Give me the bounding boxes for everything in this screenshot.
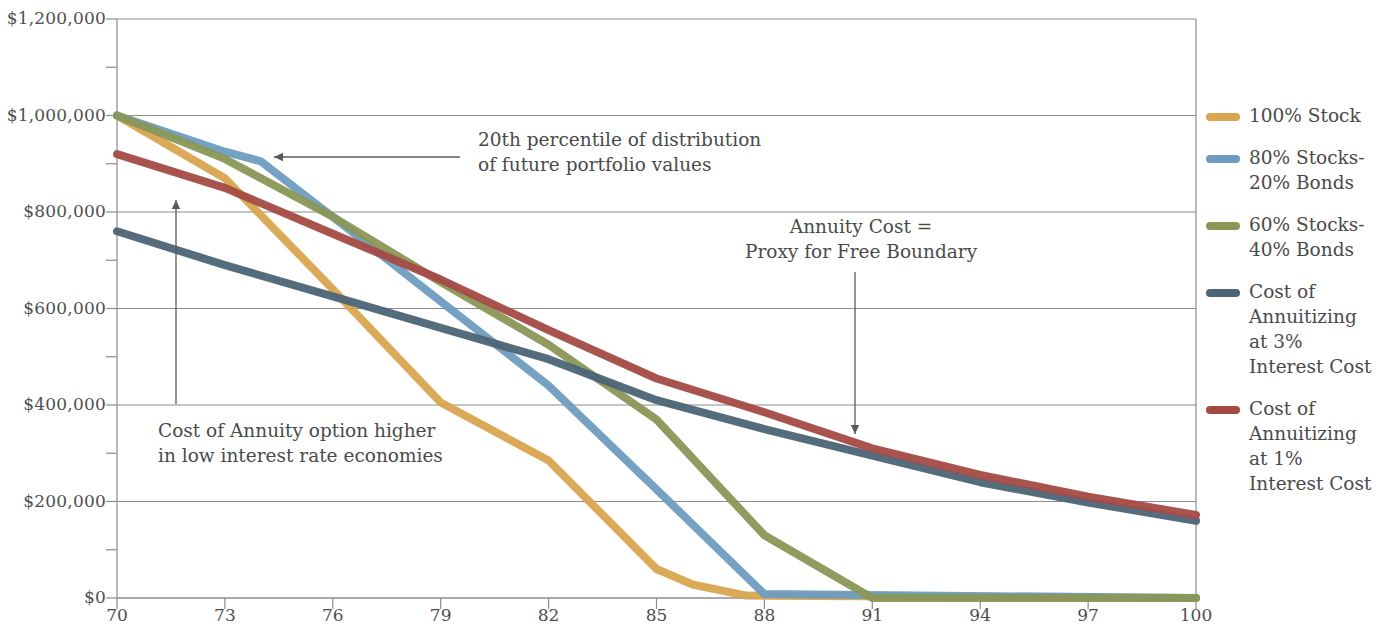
arrow-annuity-cost [851, 272, 859, 434]
y-axis-tick-label: $200,000 [23, 491, 106, 511]
legend-item[interactable]: 60% Stocks- 40% Bonds [1206, 213, 1378, 263]
legend-color-swatch-icon [1206, 222, 1240, 230]
x-axis-tick-label: 94 [969, 605, 991, 625]
y-axis-tick-label: $1,000,000 [7, 105, 106, 125]
chart-legend: 100% Stock80% Stocks- 20% Bonds60% Stock… [1206, 104, 1378, 514]
x-axis-tick-label: 97 [1077, 605, 1099, 625]
legend-item-label: 100% Stock [1249, 104, 1361, 129]
x-axis-tick-label: 76 [322, 605, 344, 625]
x-axis-tick-label: 85 [646, 605, 668, 625]
y-axis-tick-label: $400,000 [23, 394, 106, 414]
legend-item-label: Cost of Annuitizing at 1% Interest Cost [1249, 397, 1371, 497]
annotation-20th-percentile: 20th percentile of distribution of futur… [478, 128, 761, 177]
legend-color-swatch-icon [1206, 406, 1240, 414]
x-axis-tick-label: 79 [430, 605, 452, 625]
x-axis-tick-label: 70 [106, 605, 128, 625]
legend-item[interactable]: 80% Stocks- 20% Bonds [1206, 146, 1378, 196]
x-axis-tick-label: 73 [214, 605, 236, 625]
plot-area [0, 0, 1210, 636]
legend-color-swatch-icon [1206, 113, 1240, 121]
arrow-low-interest-rate [172, 200, 180, 404]
arrow-20th-percentile [274, 153, 460, 161]
plot-svg [0, 0, 1210, 636]
x-axis-tick-label: 100 [1180, 605, 1212, 625]
legend-item[interactable]: Cost of Annuitizing at 3% Interest Cost [1206, 280, 1378, 380]
y-axis-tick-label: $600,000 [23, 298, 106, 318]
y-axis-tick-label: $0 [84, 587, 106, 607]
legend-item-label: Cost of Annuitizing at 3% Interest Cost [1249, 280, 1371, 380]
series-line-2 [117, 116, 1196, 599]
arrow-20th-percentile-head [274, 153, 283, 161]
x-axis-tick-label: 91 [861, 605, 883, 625]
arrow-low-interest-rate-head [172, 200, 180, 209]
arrow-annuity-cost-head [851, 425, 859, 434]
y-axis-tick-label: $800,000 [23, 201, 106, 221]
legend-color-swatch-icon [1206, 289, 1240, 297]
x-axis-tick-label: 82 [538, 605, 560, 625]
chart-container: $1,200,000$1,000,000$800,000$600,000$400… [0, 0, 1378, 636]
legend-item[interactable]: 100% Stock [1206, 104, 1378, 129]
annotation-annuity-cost: Annuity Cost = Proxy for Free Boundary [745, 215, 977, 264]
legend-item-label: 60% Stocks- 40% Bonds [1249, 213, 1365, 263]
annotation-low-interest-rate: Cost of Annuity option higher in low int… [158, 419, 443, 468]
legend-item-label: 80% Stocks- 20% Bonds [1249, 146, 1365, 196]
legend-color-swatch-icon [1206, 155, 1240, 163]
y-axis-tick-label: $1,200,000 [7, 8, 106, 28]
legend-item[interactable]: Cost of Annuitizing at 1% Interest Cost [1206, 397, 1378, 497]
x-axis-tick-label: 88 [754, 605, 776, 625]
